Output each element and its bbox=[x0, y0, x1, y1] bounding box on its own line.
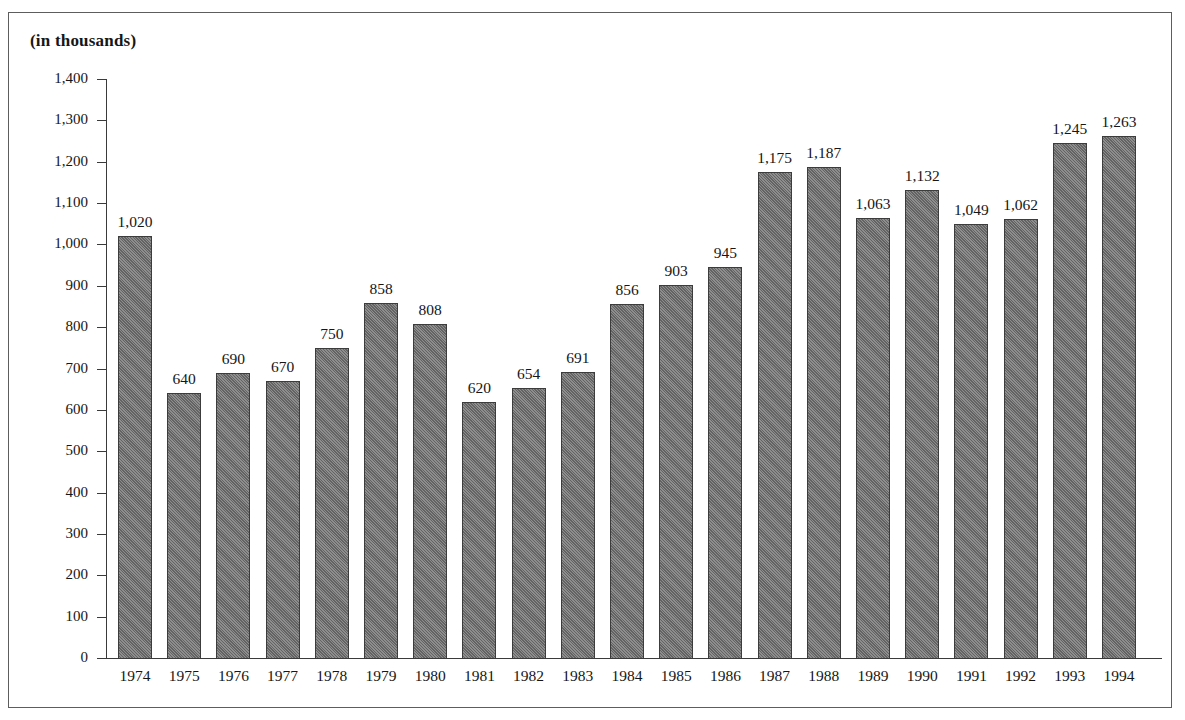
y-axis-tick-label-text: 100 bbox=[66, 609, 89, 624]
y-axis-tick-mark bbox=[97, 203, 106, 204]
bar bbox=[954, 224, 988, 658]
x-axis-line bbox=[106, 658, 1162, 659]
y-axis-tick-label: 900 bbox=[26, 286, 88, 287]
y-axis-tick-label: 400 bbox=[26, 493, 88, 494]
y-axis-tick-label: 700 bbox=[26, 369, 88, 370]
bar bbox=[1053, 143, 1087, 658]
y-axis-tick-label: 1,200 bbox=[26, 162, 88, 163]
bar-value-label: 620 bbox=[444, 380, 514, 396]
y-axis-tick-mark bbox=[97, 658, 106, 659]
y-axis-tick-label: 800 bbox=[26, 327, 88, 328]
bar bbox=[856, 218, 890, 658]
y-axis-tick-label: 600 bbox=[26, 410, 88, 411]
bar-value-label: 1,132 bbox=[887, 168, 957, 184]
y-axis-tick-label-text: 400 bbox=[66, 485, 89, 500]
y-axis-tick-label-text: 1,300 bbox=[54, 112, 88, 127]
bar bbox=[315, 348, 349, 658]
bar-value-label: 945 bbox=[690, 245, 760, 261]
y-axis-tick-label: 1,100 bbox=[26, 203, 88, 204]
y-axis-tick-label-text: 700 bbox=[66, 361, 89, 376]
bar bbox=[462, 402, 496, 658]
bar-value-label: 750 bbox=[297, 326, 367, 342]
bar bbox=[216, 373, 250, 658]
y-axis-line bbox=[106, 79, 107, 659]
bar bbox=[807, 167, 841, 658]
bar bbox=[610, 304, 644, 658]
bar-chart-plot-area: 1,4001,3001,2001,1001,000900800700600500… bbox=[0, 0, 1185, 720]
y-axis-tick-label-text: 1,200 bbox=[54, 154, 88, 169]
y-axis-tick-label: 1,400 bbox=[26, 79, 88, 80]
bar-value-label: 1,187 bbox=[789, 145, 859, 161]
y-axis-tick-mark bbox=[97, 410, 106, 411]
y-axis-tick-label-text: 300 bbox=[66, 526, 89, 541]
y-axis-tick-label-text: 600 bbox=[66, 402, 89, 417]
bar-value-label: 1,020 bbox=[100, 214, 170, 230]
y-axis-tick-mark bbox=[97, 162, 106, 163]
y-axis-tick-label-text: 500 bbox=[66, 443, 89, 458]
bar bbox=[118, 236, 152, 658]
y-axis-tick-label-text: 1,400 bbox=[54, 71, 88, 86]
bar-value-label: 856 bbox=[592, 282, 662, 298]
y-axis-tick-label: 200 bbox=[26, 575, 88, 576]
y-axis-tick-mark bbox=[97, 327, 106, 328]
bar bbox=[758, 172, 792, 658]
bar-value-label: 670 bbox=[248, 359, 318, 375]
y-axis-tick-mark bbox=[97, 617, 106, 618]
y-axis-tick-mark bbox=[97, 244, 106, 245]
bar-value-label: 808 bbox=[395, 302, 465, 318]
bar-value-label: 1,062 bbox=[986, 197, 1056, 213]
bar bbox=[364, 303, 398, 658]
chart-page: (in thousands) 1,4001,3001,2001,1001,000… bbox=[0, 0, 1185, 720]
y-axis-tick-label-text: 1,100 bbox=[54, 195, 88, 210]
bar-value-label: 1,063 bbox=[838, 196, 908, 212]
bar-value-label: 654 bbox=[494, 366, 564, 382]
x-axis-category-label: 1994 bbox=[1084, 668, 1154, 684]
y-axis-tick-label-text: 0 bbox=[81, 650, 89, 665]
y-axis-tick-label-text: 200 bbox=[66, 567, 89, 582]
bar bbox=[659, 285, 693, 658]
bar-value-label: 1,263 bbox=[1084, 114, 1154, 130]
bar bbox=[266, 381, 300, 658]
y-axis-tick-mark bbox=[97, 451, 106, 452]
y-axis-tick-label: 0 bbox=[26, 658, 88, 659]
y-axis-tick-mark bbox=[97, 575, 106, 576]
y-axis-tick-mark bbox=[97, 369, 106, 370]
y-axis-tick-mark bbox=[97, 120, 106, 121]
y-axis-tick-label: 300 bbox=[26, 534, 88, 535]
y-axis-tick-label: 100 bbox=[26, 617, 88, 618]
y-axis-tick-label-text: 1,000 bbox=[54, 236, 88, 251]
bar bbox=[905, 190, 939, 658]
y-axis-tick-mark bbox=[97, 493, 106, 494]
bar-value-label: 858 bbox=[346, 281, 416, 297]
y-axis-tick-label: 500 bbox=[26, 451, 88, 452]
bar bbox=[1004, 219, 1038, 658]
bar bbox=[413, 324, 447, 658]
y-axis-tick-label: 1,300 bbox=[26, 120, 88, 121]
y-axis-tick-mark bbox=[97, 286, 106, 287]
bar bbox=[561, 372, 595, 658]
y-axis-tick-label-text: 800 bbox=[66, 319, 89, 334]
bar-value-label: 691 bbox=[543, 350, 613, 366]
bar bbox=[1102, 136, 1136, 658]
y-axis-tick-mark bbox=[97, 534, 106, 535]
y-axis-tick-mark bbox=[97, 79, 106, 80]
bar-value-label: 903 bbox=[641, 263, 711, 279]
y-axis-tick-label: 1,000 bbox=[26, 244, 88, 245]
bar bbox=[708, 267, 742, 658]
bar bbox=[167, 393, 201, 658]
bar-value-label: 640 bbox=[149, 371, 219, 387]
bar bbox=[512, 388, 546, 658]
y-axis-tick-label-text: 900 bbox=[66, 278, 89, 293]
